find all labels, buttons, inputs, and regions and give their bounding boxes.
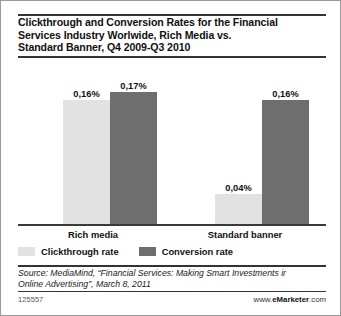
title-divider-rule	[18, 56, 326, 58]
chart-legend: Clickthrough rate Conversion rate	[18, 246, 233, 257]
bar-rich-media-clickthrough	[63, 100, 110, 226]
category-label-standard-banner: Standard banner	[198, 229, 292, 240]
bar-group-standard-banner: 0,04% 0,16%	[215, 61, 309, 226]
bar-value-label: 0,16%	[272, 89, 298, 99]
chart-title-line-3: Standard Banner, Q4 2009-Q3 2010	[18, 41, 328, 54]
legend-swatch-icon	[139, 247, 156, 256]
bar-wrap-standard-banner-clickthrough: 0,04%	[215, 61, 262, 226]
legend-label: Clickthrough rate	[41, 246, 119, 257]
chart-title-line-2: Services Industry Worlwide, Rich Media v…	[18, 29, 328, 42]
card-footer: 125557 www.eMarketer.com	[18, 295, 326, 304]
legend-item-clickthrough-rate: Clickthrough rate	[18, 246, 119, 257]
bar-wrap-rich-media-conversion: 0,17%	[110, 61, 157, 226]
bar-standard-banner-clickthrough	[215, 194, 262, 226]
brand-name: eMarketer	[272, 295, 309, 304]
bar-group-rich-media: 0,16% 0,17%	[63, 61, 157, 226]
legend-swatch-icon	[18, 247, 35, 256]
footer-divider-rule	[18, 291, 326, 292]
category-label-rich-media: Rich media	[46, 229, 140, 240]
brand-prefix: www.	[254, 295, 273, 304]
bar-value-label: 0,04%	[225, 183, 251, 193]
source-note: Source: MediaMind, “Financial Services: …	[18, 268, 328, 289]
source-note-line-1: Source: MediaMind, “Financial Services: …	[18, 268, 328, 279]
source-divider-rule	[18, 265, 326, 267]
bar-value-label: 0,16%	[73, 89, 99, 99]
legend-label: Conversion rate	[162, 246, 233, 257]
chart-title-line-1: Clickthrough and Conversion Rates for th…	[18, 16, 328, 29]
bar-rich-media-conversion	[110, 92, 157, 226]
bar-value-label: 0,17%	[120, 81, 146, 91]
source-note-line-2: Online Advertising”, March 8, 2011	[18, 279, 328, 290]
bar-wrap-rich-media-clickthrough: 0,16%	[63, 61, 110, 226]
chart-title: Clickthrough and Conversion Rates for th…	[18, 16, 328, 54]
plot-area: 0,16% 0,17% 0,04% 0,16%	[18, 61, 326, 226]
bar-standard-banner-conversion	[262, 100, 309, 226]
bar-wrap-standard-banner-conversion: 0,16%	[262, 61, 309, 226]
chart-id-label: 125557	[18, 295, 43, 304]
brand-suffix: .com	[309, 295, 326, 304]
chart-card: Clickthrough and Conversion Rates for th…	[0, 0, 341, 316]
legend-item-conversion-rate: Conversion rate	[139, 246, 233, 257]
emarketer-watermark: www.eMarketer.com	[254, 295, 326, 304]
x-axis-baseline	[18, 224, 326, 226]
